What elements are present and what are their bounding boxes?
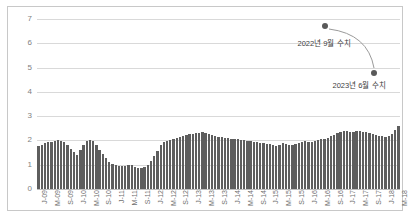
bar: [115, 165, 117, 189]
chart-frame: 01234567 J-09M-09S-09J-10M-10S-10J-11M-1…: [7, 6, 403, 211]
bar: [269, 144, 271, 189]
x-tick-label: J-10: [80, 190, 87, 204]
chart-figure: 01234567 J-09M-09S-09J-10M-10S-10J-11M-1…: [0, 0, 412, 224]
bar: [127, 165, 129, 189]
bar: [179, 137, 181, 189]
bar: [121, 166, 123, 189]
bar: [311, 142, 313, 189]
bar: [188, 134, 190, 189]
bar: [394, 130, 396, 189]
annotation-marker-peak-2022: [322, 23, 328, 29]
x-tick-label: S-12: [182, 190, 189, 205]
bar: [76, 155, 78, 189]
bar: [237, 139, 239, 189]
bar: [198, 133, 200, 189]
x-tick-label: J-14: [234, 190, 241, 204]
bar: [105, 158, 107, 189]
annotation-marker-trough-2023: [371, 70, 377, 76]
bar: [343, 131, 345, 189]
bar: [272, 145, 274, 189]
bar: [204, 133, 206, 189]
bar: [44, 143, 46, 189]
x-tick-label: S-17: [375, 190, 382, 205]
bar: [230, 139, 232, 190]
bar: [143, 167, 145, 189]
bar: [54, 141, 56, 189]
x-tick-label: M-13: [208, 190, 215, 206]
bar: [352, 132, 354, 189]
bar: [57, 140, 59, 189]
bar: [327, 138, 329, 189]
bar: [217, 137, 219, 189]
x-tick-label: J-15: [272, 190, 279, 204]
bar: [221, 137, 223, 189]
bar: [391, 134, 393, 189]
bar: [73, 152, 75, 189]
bar: [368, 133, 370, 189]
y-tick-label-6: 6: [28, 39, 32, 47]
bar: [89, 140, 91, 189]
bar: [266, 144, 268, 189]
bar: [118, 166, 120, 189]
bar: [262, 143, 264, 189]
bar: [214, 136, 216, 189]
bar: [278, 145, 280, 189]
bar: [249, 141, 251, 189]
y-tick-label-1: 1: [28, 161, 32, 169]
x-tick-label: J-11: [118, 190, 125, 203]
bar: [314, 141, 316, 189]
bar: [140, 168, 142, 189]
x-tick-label: J-12: [157, 190, 164, 204]
bar: [256, 142, 258, 189]
x-tick-label: S-14: [260, 190, 267, 205]
bar: [355, 131, 357, 189]
bar: [362, 132, 364, 189]
bar: [259, 143, 261, 189]
bar: [60, 141, 62, 189]
bar: [294, 144, 296, 189]
y-tick-label-7: 7: [28, 15, 32, 23]
y-tick-label-3: 3: [28, 112, 32, 120]
bar: [131, 165, 133, 189]
bar: [134, 167, 136, 189]
bar: [63, 142, 65, 189]
x-tick-label: J-16: [311, 190, 318, 204]
bar: [333, 135, 335, 189]
bar: [41, 145, 43, 189]
bar: [330, 136, 332, 189]
bar: [160, 145, 162, 189]
bar: [176, 138, 178, 189]
bar: [339, 132, 341, 189]
bar: [66, 145, 68, 189]
bar: [372, 134, 374, 189]
bar: [224, 138, 226, 189]
bar: [359, 131, 361, 189]
bar: [323, 139, 325, 190]
bar: [285, 144, 287, 189]
bar: [336, 133, 338, 189]
bar: [111, 164, 113, 189]
x-tick-label: M-15: [285, 190, 292, 206]
bar: [291, 145, 293, 189]
bar: [192, 134, 194, 189]
bar: [365, 132, 367, 189]
bar: [182, 136, 184, 189]
x-tick-label: J-17: [349, 190, 356, 204]
bar: [169, 140, 171, 189]
bar: [253, 142, 255, 189]
bar: [375, 135, 377, 189]
bar: [388, 136, 390, 189]
bar: [86, 141, 88, 189]
x-tick-label: M-14: [247, 190, 254, 206]
x-tick-label: S-15: [298, 190, 305, 205]
bar: [137, 168, 139, 189]
bar: [304, 141, 306, 189]
bar: [185, 135, 187, 189]
x-tick-label: J-18: [388, 190, 395, 204]
bar: [70, 149, 72, 189]
x-tick-label: M-09: [54, 190, 61, 206]
bar: [301, 142, 303, 189]
bar: [282, 143, 284, 189]
bar: [298, 143, 300, 189]
bar: [275, 146, 277, 189]
